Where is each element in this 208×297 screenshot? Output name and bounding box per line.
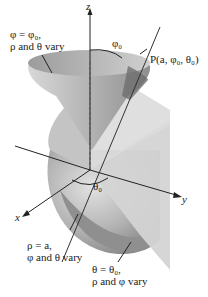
x-axis-label: x [15,211,20,223]
spherical-coordinates-diagram: z y x φ = φ₀, ρ and θ vary φ₀ P(a, φ₀, θ… [0,0,208,297]
y-axis-label: y [182,193,187,205]
y-axis-arrow-icon [173,192,182,198]
z-axis-label: z [86,0,90,12]
point-label: P(a, φ₀, θ₀) [150,53,199,65]
plane-label-line1: θ = θ₀, [92,263,121,275]
sphere-label-line2: φ and θ vary [27,251,82,263]
point-label-leader [140,49,147,54]
cone-label-line2: ρ and θ vary [10,40,64,52]
theta0-label: θ₀ [93,180,102,192]
plane-label-line2: ρ and φ vary [92,275,148,287]
cone-label-line1: φ = φ₀, [10,28,41,40]
phi0-label: φ₀ [112,37,122,49]
x-axis-arrow-icon [22,210,30,217]
sphere-label-line1: ρ = a, [27,239,52,251]
